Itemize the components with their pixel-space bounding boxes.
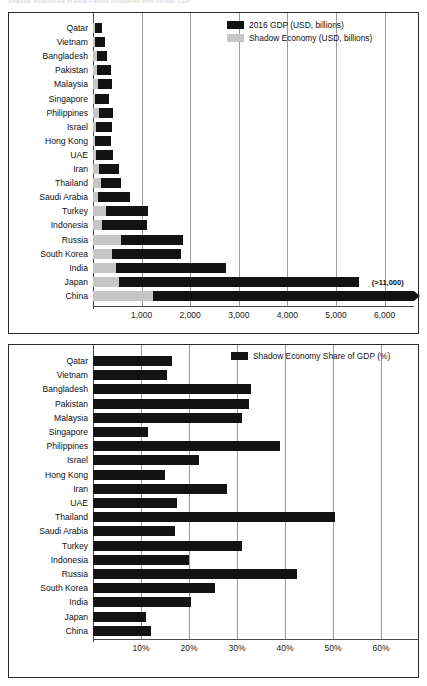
chart-row: Iran bbox=[9, 482, 418, 496]
bar-shadow-economy bbox=[93, 220, 102, 230]
bar-shadow-share bbox=[93, 526, 175, 536]
overflow-arrow-icon bbox=[414, 291, 420, 301]
bar-gdp bbox=[96, 122, 111, 132]
category-label: China bbox=[9, 624, 88, 638]
category-label: Pakistan bbox=[9, 397, 88, 411]
chart-row: Malaysia bbox=[9, 77, 418, 91]
chart-row: Pakistan bbox=[9, 63, 418, 77]
bar-gdp bbox=[98, 192, 129, 202]
category-label: Turkey bbox=[9, 539, 88, 553]
category-label: Iran bbox=[9, 162, 88, 176]
category-label: Japan bbox=[9, 275, 88, 289]
bar-gdp bbox=[106, 206, 148, 216]
chart-row: UAE bbox=[9, 148, 418, 162]
legend-label: 2016 GDP (USD, billions) bbox=[249, 20, 344, 30]
plot-area-share: 10%20%30%40%50%60%QatarVietnamBangladesh… bbox=[9, 345, 418, 677]
bar-shadow-share bbox=[93, 612, 146, 622]
chart-row: Israel bbox=[9, 453, 418, 467]
bar-shadow-share bbox=[93, 512, 335, 522]
bar-shadow-share bbox=[93, 626, 151, 636]
category-label: Qatar bbox=[9, 354, 88, 368]
category-label: South Korea bbox=[9, 247, 88, 261]
category-label: Israel bbox=[9, 453, 88, 467]
chart-row: Hong Kong bbox=[9, 134, 418, 148]
chart-row: Indonesia bbox=[9, 218, 418, 232]
category-label: Vietnam bbox=[9, 368, 88, 382]
category-label: Pakistan bbox=[9, 63, 88, 77]
bar-gdp bbox=[102, 220, 147, 230]
bar-shadow-share bbox=[93, 413, 242, 423]
chart-row: Philippines bbox=[9, 439, 418, 453]
legend-item: Shadow Economy (USD, billions) bbox=[227, 33, 372, 43]
category-label: Thailand bbox=[9, 510, 88, 524]
bar-shadow-share bbox=[93, 455, 199, 465]
chart-row: China bbox=[9, 624, 418, 638]
x-axis-tick-label: 50% bbox=[324, 643, 341, 653]
bar-shadow-economy bbox=[93, 291, 153, 301]
bar-gdp bbox=[95, 23, 102, 33]
chart-row: Japan bbox=[9, 275, 418, 289]
bar-shadow-share bbox=[93, 541, 242, 551]
chart-row: Hong Kong bbox=[9, 468, 418, 482]
chart-row: India bbox=[9, 595, 418, 609]
category-label: China bbox=[9, 289, 88, 303]
bar-shadow-share bbox=[93, 470, 165, 480]
x-axis-tick-label: 30% bbox=[228, 643, 245, 653]
bar-shadow-share bbox=[93, 555, 189, 565]
chart-panel-shadow-share: 10%20%30%40%50%60%QatarVietnamBangladesh… bbox=[8, 344, 419, 678]
bar-shadow-economy bbox=[93, 249, 112, 259]
x-axis-tick-label: 3,000 bbox=[228, 310, 249, 320]
bar-shadow-share bbox=[93, 384, 251, 394]
legend-share: Shadow Economy Share of GDP (%) bbox=[231, 351, 390, 364]
category-label: Israel bbox=[9, 120, 88, 134]
bar-gdp bbox=[95, 136, 111, 146]
chart-row: Bangladesh bbox=[9, 49, 418, 63]
bar-gdp bbox=[96, 150, 113, 160]
bar-gdp bbox=[99, 164, 119, 174]
x-axis-tick-label: 60% bbox=[372, 643, 389, 653]
category-label: UAE bbox=[9, 496, 88, 510]
chart-row: Malaysia bbox=[9, 411, 418, 425]
category-label: Qatar bbox=[9, 21, 88, 35]
category-label: Russia bbox=[9, 233, 88, 247]
bar-shadow-share bbox=[93, 356, 172, 366]
chart-row: Saudi Arabia bbox=[9, 524, 418, 538]
category-label: Bangladesh bbox=[9, 382, 88, 396]
category-label: Hong Kong bbox=[9, 134, 88, 148]
chart-row: South Korea bbox=[9, 247, 418, 261]
category-label: Turkey bbox=[9, 204, 88, 218]
chart-row: Saudi Arabia bbox=[9, 190, 418, 204]
x-axis-tick-label: 10% bbox=[132, 643, 149, 653]
chart-row: Bangladesh bbox=[9, 382, 418, 396]
bar-gdp bbox=[98, 79, 112, 89]
x-axis-tick-label: 6,000 bbox=[374, 310, 395, 320]
bar-shadow-share bbox=[93, 498, 177, 508]
category-label: India bbox=[9, 261, 88, 275]
category-label: UAE bbox=[9, 148, 88, 162]
x-axis-tick-label: 1,000 bbox=[131, 310, 152, 320]
bar-shadow-economy bbox=[93, 263, 116, 273]
chart-panel-gdp-vs-shadow: 1,0002,0003,0004,0005,0006,000QatarVietn… bbox=[8, 12, 419, 334]
legend-swatch bbox=[227, 34, 244, 42]
chart-row: Iran bbox=[9, 162, 418, 176]
legend-item: Shadow Economy Share of GDP (%) bbox=[231, 351, 390, 361]
category-label: Philippines bbox=[9, 106, 88, 120]
chart-row: Turkey bbox=[9, 539, 418, 553]
bar-gdp bbox=[116, 263, 226, 273]
chart-row: South Korea bbox=[9, 581, 418, 595]
category-label: Saudi Arabia bbox=[9, 524, 88, 538]
category-label: Iran bbox=[9, 482, 88, 496]
x-axis-line bbox=[93, 639, 419, 640]
chart-row: UAE bbox=[9, 496, 418, 510]
category-label: Malaysia bbox=[9, 77, 88, 91]
bar-gdp bbox=[97, 65, 111, 75]
legend-label: Shadow Economy Share of GDP (%) bbox=[253, 351, 390, 361]
chart-row: Indonesia bbox=[9, 553, 418, 567]
bar-gdp bbox=[112, 249, 181, 259]
bar-shadow-share bbox=[93, 569, 297, 579]
chart-page: Shadow economies in Asia-Pacific compare… bbox=[0, 0, 427, 686]
bar-shadow-share bbox=[93, 370, 167, 380]
category-label: Bangladesh bbox=[9, 49, 88, 63]
chart-row: Thailand bbox=[9, 510, 418, 524]
bar-shadow-economy bbox=[93, 235, 121, 245]
